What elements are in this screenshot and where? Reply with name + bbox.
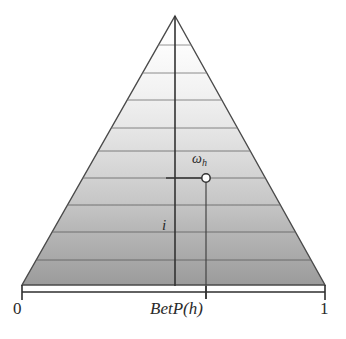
axis-label-betp: BetP(h) <box>150 300 203 317</box>
omega-h-label: ωh <box>192 152 207 168</box>
omega-glyph: ω <box>192 151 202 166</box>
axis-label-min: 0 <box>13 300 22 317</box>
simplex-triangle-body <box>22 16 325 285</box>
triangle-diagram-svg <box>0 0 346 339</box>
omega-h-marker <box>202 174 210 182</box>
inner-label-i: i <box>162 218 166 233</box>
omega-subscript: h <box>202 157 207 168</box>
axis-label-max: 1 <box>320 300 329 317</box>
figure-canvas: 0 BetP(h) 1 ωh i <box>0 0 346 339</box>
